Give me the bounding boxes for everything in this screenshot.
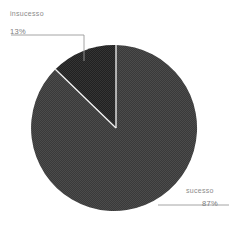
pie-label-sucesso: sucesso: [186, 187, 214, 194]
pie-chart: insucesso 13% sucesso 87%: [0, 0, 229, 226]
pie-value-sucesso: 87%: [202, 200, 218, 208]
pie-label-insucesso: insucesso: [10, 10, 44, 17]
pie-value-insucesso: 13%: [10, 28, 26, 36]
